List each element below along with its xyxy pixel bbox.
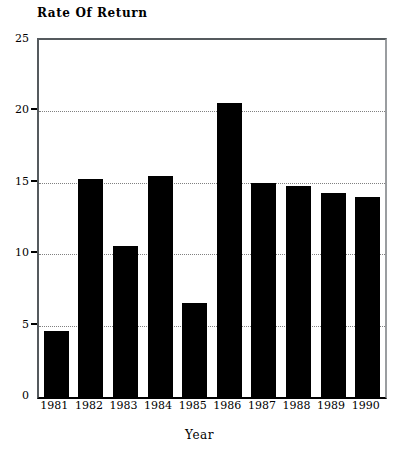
bar <box>321 193 346 397</box>
x-tick-label: 1986 <box>213 399 241 412</box>
x-tick-label: 1989 <box>317 399 345 412</box>
x-axis-title: Year <box>0 428 399 442</box>
bar <box>148 176 173 397</box>
x-tick-label: 1982 <box>75 399 103 412</box>
chart-title: Rate Of Return <box>37 6 148 20</box>
y-axis: 2520151050 <box>0 38 37 395</box>
bar <box>113 246 138 397</box>
bar <box>286 186 311 397</box>
bar <box>217 103 242 397</box>
x-tick-label: 1985 <box>179 399 207 412</box>
bar <box>182 303 207 397</box>
bar <box>44 331 69 397</box>
bar <box>251 183 276 397</box>
x-tick-label: 1983 <box>110 399 138 412</box>
y-tick-label: 20 <box>15 104 29 115</box>
y-tick-label: 5 <box>22 318 29 329</box>
y-tick-label: 0 <box>22 390 29 401</box>
bar <box>355 197 380 397</box>
x-tick-label: 1981 <box>40 399 68 412</box>
y-tick-label: 25 <box>15 33 29 44</box>
bar <box>78 179 103 397</box>
x-tick-label: 1988 <box>283 399 311 412</box>
plot-area <box>37 38 387 399</box>
x-tick-label: 1987 <box>248 399 276 412</box>
x-tick-label: 1990 <box>352 399 380 412</box>
x-axis: 1981198219831984198519861987198819891990 <box>37 399 383 419</box>
y-tick-label: 15 <box>15 175 29 186</box>
x-tick-label: 1984 <box>144 399 172 412</box>
bars-layer <box>39 40 385 397</box>
y-tick-label: 10 <box>15 247 29 258</box>
bar-chart: Rate Of Return 2520151050 19811982198319… <box>0 0 399 451</box>
